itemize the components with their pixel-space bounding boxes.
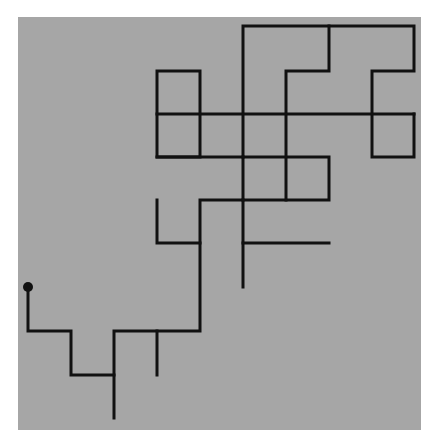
random-walk-diagram <box>0 0 440 447</box>
start-point-marker <box>23 282 33 292</box>
diagram-background <box>18 17 421 430</box>
